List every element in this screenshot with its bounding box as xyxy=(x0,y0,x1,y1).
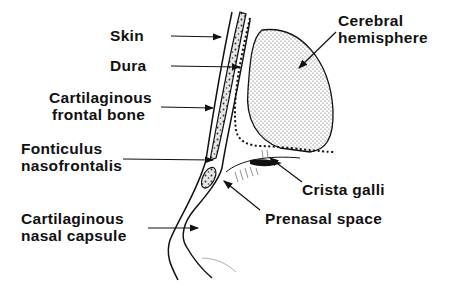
label-skin: Skin xyxy=(110,27,144,44)
fonticulus-arrow xyxy=(123,159,213,160)
frontal-bone-arrow xyxy=(161,107,213,108)
label-prenasal-space: Prenasal space xyxy=(265,210,382,227)
label-cartilaginous-nasal-capsule: Cartilaginous nasal capsule xyxy=(21,210,127,244)
label-crista-galli: Crista galli xyxy=(302,181,385,198)
label-cartilaginous-frontal-bone: Cartilaginous frontal bone xyxy=(49,89,152,123)
crista-arrow xyxy=(270,158,302,182)
label-dura: Dura xyxy=(110,57,147,74)
faint-line xyxy=(202,258,236,272)
label-fonticulus-nasofrontalis: Fonticulus nasofrontalis xyxy=(21,140,122,174)
label-cerebral-hemisphere: Cerebral hemisphere xyxy=(338,12,428,46)
prenasal-arrow xyxy=(224,181,260,210)
skin-line xyxy=(168,12,232,280)
skin-arrow xyxy=(171,36,221,37)
diagram-canvas: Skin Dura Cartilaginous frontal bone Fon… xyxy=(0,0,467,296)
